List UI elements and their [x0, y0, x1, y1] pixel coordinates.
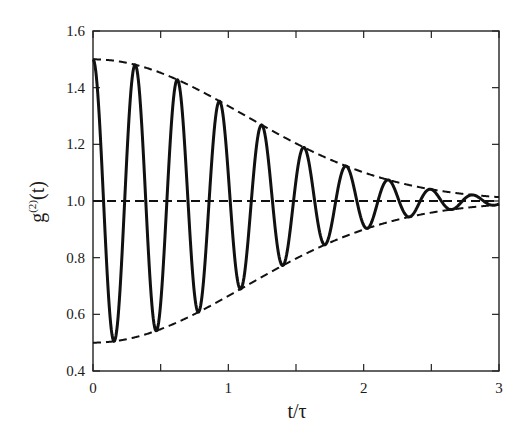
y-tick-label: 0.6 — [66, 306, 85, 322]
y-axis-title-base: g — [26, 213, 49, 223]
y-tick-label: 1.4 — [66, 80, 85, 96]
x-axis-title: t/τ — [287, 400, 306, 422]
y-tick-label: 1.0 — [66, 193, 85, 209]
y-tick-label: 1.6 — [66, 23, 85, 39]
chart: 0123 0.40.60.81.01.21.41.6 t/τ g(2)(t) — [0, 0, 519, 437]
x-tick-label: 3 — [495, 380, 503, 396]
y-axis-title: g(2)(t) — [26, 181, 49, 223]
y-axis-title-arg: (t) — [26, 181, 49, 200]
data-series — [93, 59, 499, 342]
plot-area — [93, 31, 499, 371]
x-tick-label: 0 — [89, 380, 97, 396]
x-tick-labels: 0123 — [89, 380, 503, 396]
x-tick-label: 1 — [225, 380, 233, 396]
y-tick-label: 0.8 — [66, 250, 85, 266]
x-tick-label: 2 — [360, 380, 368, 396]
y-tick-labels: 0.40.60.81.01.21.41.6 — [66, 23, 85, 379]
y-tick-label: 0.4 — [66, 363, 85, 379]
y-tick-label: 1.2 — [66, 136, 85, 152]
y-axis-title-sup: (2) — [26, 200, 39, 213]
